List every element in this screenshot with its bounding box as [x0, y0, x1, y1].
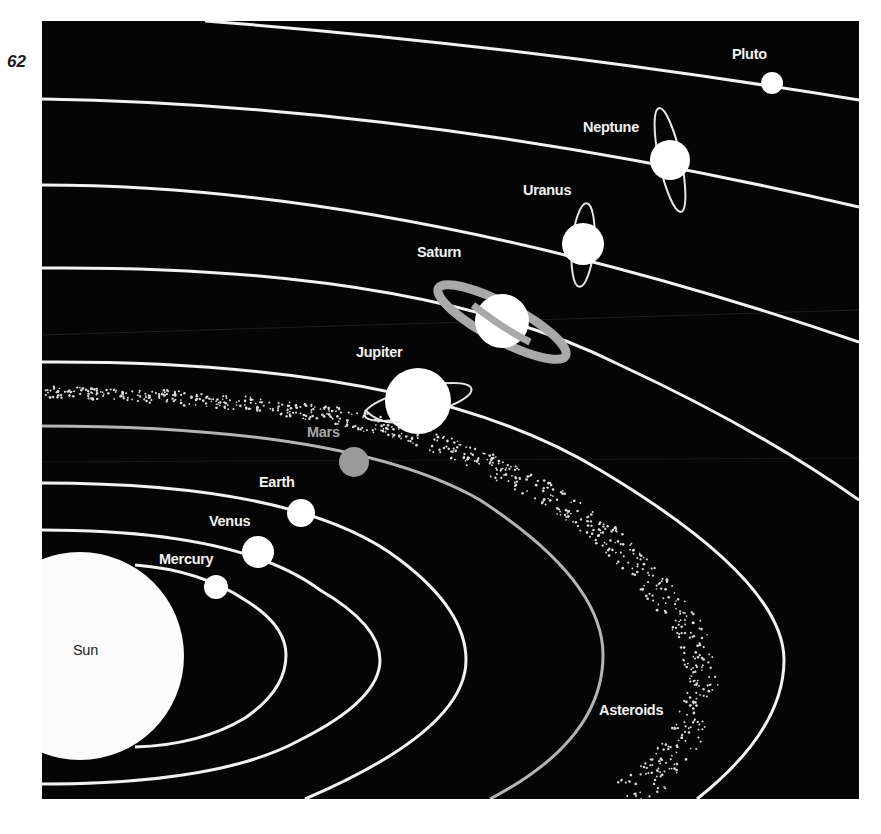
- pluto-label: Pluto: [732, 46, 767, 62]
- planet-mercury: [204, 575, 228, 599]
- mars-label: Mars: [307, 424, 340, 440]
- planet-jupiter: [385, 368, 451, 434]
- uranus-label: Uranus: [523, 182, 571, 198]
- planet-pluto: [761, 72, 783, 94]
- neptune-label: Neptune: [583, 119, 639, 135]
- sun-label: Sun: [73, 642, 98, 658]
- planet-uranus: [562, 223, 604, 265]
- saturn-label: Saturn: [417, 244, 461, 260]
- planet-mars: [339, 447, 369, 477]
- page-number: 62: [7, 52, 26, 72]
- diagram-canvas: Sun Mercury Venus Earth Mars Jupiter Sat…: [42, 21, 859, 799]
- planet-venus: [242, 536, 274, 568]
- asteroids-label: Asteroids: [599, 702, 663, 718]
- orbit-uranus: [42, 185, 859, 342]
- earth-label: Earth: [259, 474, 295, 490]
- mercury-label: Mercury: [159, 551, 214, 567]
- planet-earth: [287, 499, 315, 527]
- planet-neptune: [650, 140, 690, 180]
- sun: [42, 552, 184, 760]
- venus-label: Venus: [209, 513, 250, 529]
- jupiter-label: Jupiter: [356, 344, 403, 360]
- solar-system-diagram: Sun Mercury Venus Earth Mars Jupiter Sat…: [42, 21, 859, 799]
